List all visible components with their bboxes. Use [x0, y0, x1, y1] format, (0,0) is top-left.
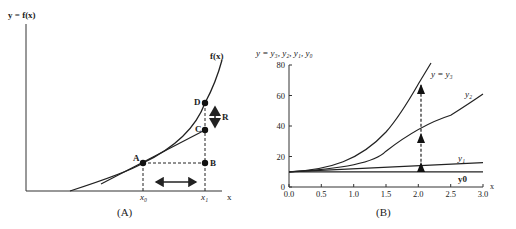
x0-label: x₀ — [139, 192, 147, 202]
label-y2: y₂ — [464, 89, 472, 99]
panel-b-y-label: y = y₃, y₂, y₁, y₀ — [255, 48, 313, 58]
figure: y = f(x) x f(x) A B C D R x₀ x₁ (A) y = … — [0, 0, 516, 229]
panel-a-y-label: y = f(x) — [8, 10, 36, 20]
svg-text:1.5: 1.5 — [381, 189, 392, 199]
svg-text:80: 80 — [277, 60, 286, 70]
r-label: R — [222, 112, 229, 122]
point-a — [140, 160, 146, 166]
label-d: D — [194, 97, 201, 107]
svg-text:60: 60 — [277, 91, 286, 101]
svg-text:40: 40 — [277, 121, 286, 131]
panel-a-caption: (A) — [117, 206, 133, 219]
point-c — [202, 127, 208, 133]
arrowhead-y2 — [417, 133, 425, 143]
tangent-line — [101, 130, 205, 184]
point-b — [202, 160, 208, 166]
svg-text:0.0: 0.0 — [284, 189, 295, 199]
label-y1: y₁ — [457, 153, 465, 163]
arrowhead-y1 — [417, 162, 425, 172]
x-ticks: 0.0 0.5 1.0 1.5 2.0 2.5 3.0 — [284, 184, 489, 199]
panel-b-caption: (B) — [376, 206, 391, 219]
svg-text:0.5: 0.5 — [316, 189, 327, 199]
label-a: A — [133, 153, 140, 163]
x1-label: x₁ — [200, 192, 208, 202]
panel-b-x-label: x — [490, 182, 494, 191]
arrowhead-y3 — [417, 84, 425, 94]
label-c: C — [195, 124, 202, 134]
svg-text:20: 20 — [277, 152, 286, 162]
label-b: B — [210, 158, 216, 168]
series-y3 — [289, 63, 431, 172]
svg-text:2.5: 2.5 — [445, 189, 456, 199]
svg-text:1.0: 1.0 — [348, 189, 359, 199]
label-y0: y0 — [458, 174, 468, 184]
svg-text:3.0: 3.0 — [478, 189, 489, 199]
label-y3: y = y₃ — [430, 69, 453, 79]
panel-b: y = y₃, y₂, y₁, y₀ 0 20 40 60 80 0.0 0.5… — [255, 48, 494, 219]
panel-a-x-label: x — [227, 192, 232, 202]
panel-a: y = f(x) x f(x) A B C D R x₀ x₁ (A) — [8, 10, 232, 219]
series-y2 — [289, 94, 483, 172]
f-curve-label: f(x) — [210, 51, 224, 61]
svg-text:2.0: 2.0 — [413, 189, 424, 199]
point-d — [202, 100, 208, 106]
